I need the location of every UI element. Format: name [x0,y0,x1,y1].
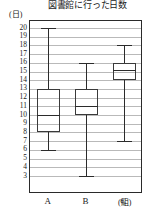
iqr-box [75,89,98,115]
lower-whisker [86,115,87,176]
upper-whisker [86,63,87,89]
boxplot-figure: 図書館に行った日数 (日) 20191817161514131211109876… [0,0,147,218]
x-tick-label-b: B [71,196,101,206]
chart-title: 図書館に行った日数 [28,0,147,11]
y-tick-label-19: 19 [9,32,27,40]
max-cap [79,63,94,64]
y-tick-label-3: 3 [9,172,27,180]
x-tick-label-c: C [108,196,138,206]
boxplot-b [68,21,106,192]
min-cap [79,176,94,177]
y-tick-label-5: 5 [9,154,27,162]
max-cap [117,45,132,46]
upper-whisker [124,45,125,62]
y-tick-label-15: 15 [9,67,27,75]
iqr-box [113,63,136,80]
y-axis-tick-labels: 20191817161514131211109876543 [8,20,27,193]
min-cap [41,150,56,151]
min-cap [117,141,132,142]
boxplot-c [105,21,143,192]
x-tick-label-a: A [33,196,63,206]
y-tick-label-11: 11 [9,102,27,110]
max-cap [41,28,56,29]
upper-whisker [48,28,49,89]
lower-whisker [124,80,125,141]
median-line [113,70,136,71]
median-line [75,106,98,107]
y-tick-label-12: 12 [9,93,27,101]
y-tick-label-18: 18 [9,41,27,49]
lower-whisker [48,132,49,149]
plot-area [29,20,142,193]
y-tick-label-8: 8 [9,128,27,136]
iqr-box [37,89,60,133]
boxplot-a [30,21,68,192]
y-tick-label-4: 4 [9,163,27,171]
median-line [37,115,60,116]
y-axis-unit-label: (日) [9,10,22,19]
